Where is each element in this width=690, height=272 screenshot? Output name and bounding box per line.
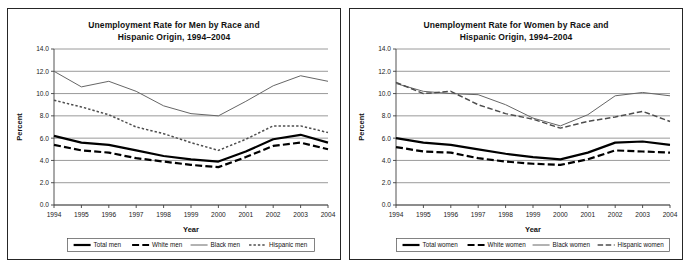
y-tick-label: 0.0 [382,201,391,208]
legend-label-hispanic-men: Hispanic men [269,241,308,249]
x-tick-label: 1996 [443,211,458,218]
y-tick-label: 2.0 [382,179,391,186]
legend-label-black-women: Black women [553,241,591,248]
y-tick-label: 2.0 [40,179,49,186]
x-tick-label: 1999 [526,211,541,218]
y-axis-title: Percent [357,113,366,141]
x-tick-label: 2003 [293,211,308,218]
x-tick-label: 2004 [321,211,336,218]
y-tick-label: 4.0 [382,157,391,164]
y-tick-label: 6.0 [40,135,49,142]
y-tick-label: 8.0 [382,112,391,119]
x-tick-label: 1998 [156,211,171,218]
x-tick-label: 1994 [47,211,62,218]
x-tick-label: 2001 [580,211,595,218]
legend-label-black-men: Black men [211,241,241,248]
x-tick-label: 1999 [184,211,199,218]
x-tick-label: 2002 [608,211,623,218]
chart-svg-men: 0.02.04.06.08.010.012.014.01994199519961… [8,9,340,259]
series-line-black-women [396,84,670,126]
y-tick-label: 14.0 [36,45,49,52]
plot-area-women: 0.02.04.06.08.010.012.014.01994199519961… [350,9,682,259]
y-tick-label: 10.0 [378,90,391,97]
y-tick-label: 8.0 [40,112,49,119]
x-tick-label: 1994 [389,211,404,218]
x-tick-label: 2002 [266,211,281,218]
plot-area-men: 0.02.04.06.08.010.012.014.01994199519961… [8,9,340,259]
x-tick-label: 2003 [635,211,650,218]
legend-label-total-women: Total women [423,241,459,248]
x-axis-title: Year [183,225,199,234]
legend-label-hispanic-women: Hispanic women [618,241,665,249]
y-tick-label: 10.0 [36,90,49,97]
series-line-white-women [396,147,670,165]
legend-label-white-women: White women [488,241,527,248]
series-line-total-women [396,138,670,159]
y-axis-title: Percent [15,113,24,141]
x-axis-title: Year [525,225,541,234]
x-tick-label: 2000 [211,211,226,218]
legend-label-total-men: Total men [94,241,122,248]
y-tick-label: 14.0 [378,45,391,52]
x-tick-label: 2004 [663,211,678,218]
x-tick-label: 2001 [238,211,253,218]
y-tick-label: 0.0 [40,201,49,208]
x-tick-label: 1998 [498,211,513,218]
x-tick-label: 1997 [129,211,144,218]
x-tick-label: 1995 [416,211,431,218]
series-line-total-men [54,135,328,162]
legend-label-white-men: White men [152,241,183,248]
series-line-white-men [54,143,328,168]
series-line-hispanic-women [396,82,670,128]
x-tick-label: 1997 [471,211,486,218]
x-tick-label: 1995 [74,211,89,218]
x-tick-label: 2000 [553,211,568,218]
chart-panel-women: Unemployment Rate for Women by Race and … [349,8,683,260]
y-tick-label: 4.0 [40,157,49,164]
y-tick-label: 12.0 [36,68,49,75]
chart-panel-men: Unemployment Rate for Men by Race and Hi… [7,8,341,260]
y-tick-label: 6.0 [382,135,391,142]
y-tick-label: 12.0 [378,68,391,75]
x-tick-label: 1996 [101,211,116,218]
chart-page: Unemployment Rate for Men by Race and Hi… [0,0,690,272]
chart-svg-women: 0.02.04.06.08.010.012.014.01994199519961… [350,9,682,259]
